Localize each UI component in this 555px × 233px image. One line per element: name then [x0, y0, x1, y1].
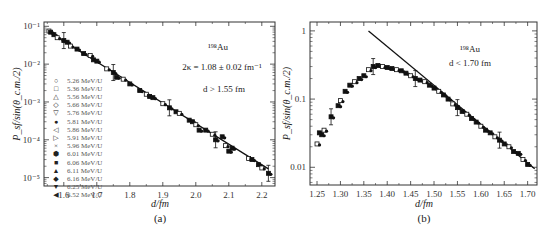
y-tick-label: 10⁻¹	[23, 21, 40, 31]
x-tick-label: 2.2	[256, 190, 267, 200]
x-tick-label: 1.25	[309, 189, 325, 199]
chart-panel-a: 1.61.71.81.92.02.12.210⁻⁵10⁻⁴10⁻³10⁻²10⁻…	[11, 21, 275, 225]
legend-marker-icon: ◁	[53, 126, 59, 134]
x-tick-label: 1.8	[124, 190, 136, 200]
legend-entry: 5.36 MeV/U	[67, 85, 102, 93]
y-tick-label: 0.1	[295, 94, 306, 104]
legend-marker-icon: ◆	[53, 175, 59, 183]
y-tick-label: 1	[302, 26, 307, 36]
x-tick-label: 2.0	[190, 190, 202, 200]
figure: 1.61.71.81.92.02.12.210⁻⁵10⁻⁴10⁻³10⁻²10⁻…	[0, 0, 555, 233]
y-axis-title: P_sf/sin(θ_c.m./2)	[11, 67, 23, 142]
legend-entry: 5.56 MeV/U	[67, 93, 102, 101]
annotation-nucleus: ¹⁹⁸Au	[460, 44, 480, 54]
panel-label: (a)	[154, 212, 167, 225]
annotation-kappa: 2κ = 1.08 ± 0.02 fm⁻¹	[182, 62, 262, 72]
legend-entry: 6.01 MeV/U	[67, 150, 102, 158]
x-tick-label: 1.30	[333, 189, 349, 199]
legend-entry: 5.66 MeV/U	[67, 101, 102, 109]
y-tick-label: 10⁻³	[23, 97, 40, 107]
legend-marker-icon: ×	[54, 142, 58, 150]
legend-marker-icon: ▲	[53, 167, 60, 175]
legend-entry: 5.26 MeV/U	[67, 77, 102, 85]
y-tick-label: 10⁻⁴	[23, 135, 40, 145]
legend-entry: 6.06 MeV/U	[67, 159, 102, 167]
legend-marker-icon: □	[54, 85, 59, 93]
legend-entry: 6.25 MeV/U	[67, 183, 102, 191]
plot-frame	[310, 22, 537, 185]
x-tick-label: 1.40	[379, 189, 395, 199]
legend-marker-icon: △	[53, 93, 59, 101]
y-axis-title: P_sf/sin(θ_c.m./2)	[281, 66, 293, 141]
legend-entry: 5.76 MeV/U	[67, 109, 102, 117]
legend-entry: 5.81 MeV/U	[67, 118, 102, 126]
annotation-nucleus: ¹⁹⁸Au	[208, 42, 228, 52]
legend-entry: 6.52 MeV/U	[67, 191, 102, 199]
x-tick-label: 1.55	[450, 189, 466, 199]
legend-marker-icon: ▽	[53, 109, 59, 117]
legend-marker-icon: ▷	[53, 134, 59, 142]
y-tick-label: 10⁻²	[23, 59, 40, 69]
x-axis-title: d/fm	[151, 198, 169, 209]
chart-panel-b: 1.251.301.351.401.451.501.551.601.651.70…	[281, 22, 537, 225]
x-tick-label: 1.70	[520, 189, 536, 199]
y-tick-label: 0.01	[290, 162, 306, 172]
legend: ○5.26 MeV/U□5.36 MeV/U△5.56 MeV/U◇5.66 M…	[53, 77, 103, 200]
legend-marker-icon: ■	[54, 159, 58, 167]
y-tick-label: 10⁻⁵	[23, 173, 40, 183]
legend-marker-icon: ○	[54, 77, 58, 85]
x-tick-label: 2.1	[223, 190, 234, 200]
legend-marker-icon: ⬢	[53, 150, 59, 158]
legend-marker-icon: ▼	[53, 183, 60, 191]
panel-label: (b)	[418, 212, 431, 225]
annotation-range: d > 1.55 fm	[203, 84, 245, 94]
legend-entry: 5.86 MeV/U	[67, 126, 102, 134]
legend-entry: 6.11 MeV/U	[67, 167, 102, 175]
x-axis-title: d/fm	[415, 198, 433, 209]
annotation-range: d < 1.70 fm	[449, 58, 491, 68]
x-tick-label: 1.35	[356, 189, 372, 199]
legend-entry: 5.96 MeV/U	[67, 142, 102, 150]
legend-marker-icon: ◇	[53, 101, 59, 109]
legend-marker-icon: ◀	[53, 191, 59, 199]
x-tick-label: 1.65	[496, 189, 512, 199]
legend-entry: 6.16 MeV/U	[67, 175, 102, 183]
legend-entry: 5.91 MeV/U	[67, 134, 102, 142]
legend-marker-icon: ●	[54, 118, 58, 126]
x-tick-label: 1.60	[473, 189, 489, 199]
